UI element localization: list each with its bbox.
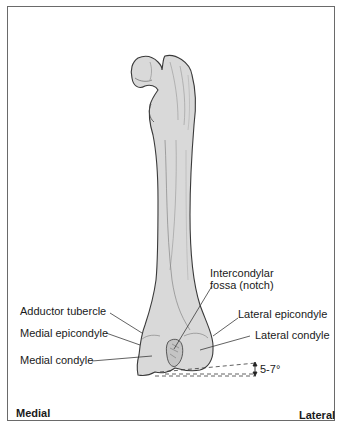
label-lateral-condyle: Lateral condyle	[255, 329, 330, 342]
angle-arrow-icon	[253, 362, 257, 376]
orientation-medial: Medial	[16, 407, 50, 420]
label-medial-condyle: Medial condyle	[20, 354, 93, 367]
label-intercondylar-line2: fossa (notch)	[210, 279, 274, 292]
orientation-lateral: Lateral	[299, 409, 335, 422]
label-lateral-epicondyle: Lateral epicondyle	[238, 308, 327, 321]
femur-bone	[131, 55, 213, 375]
leader-adductor	[110, 313, 142, 333]
leader-lateral-epicondyle	[213, 318, 238, 336]
label-medial-epicondyle: Medial epicondyle	[20, 327, 108, 340]
label-adductor-tubercle: Adductor tubercle	[20, 305, 106, 318]
label-angle: 5-7°	[260, 363, 280, 376]
leader-medial-epicondyle	[106, 333, 140, 345]
